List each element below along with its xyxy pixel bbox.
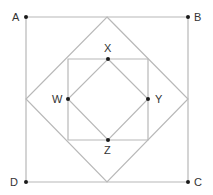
label-a: A xyxy=(12,11,20,23)
point-b xyxy=(186,15,190,19)
point-c xyxy=(186,180,190,184)
label-w: W xyxy=(52,93,63,105)
point-y xyxy=(146,97,150,101)
nested-squares-diagram: A B C D X Y Z W xyxy=(0,0,213,195)
square-wxyz xyxy=(68,59,148,140)
label-z: Z xyxy=(104,144,111,156)
point-z xyxy=(106,138,110,142)
inner-square xyxy=(68,59,148,140)
label-x: X xyxy=(104,42,112,54)
point-x xyxy=(106,57,110,61)
label-c: C xyxy=(194,176,202,188)
point-a xyxy=(24,15,28,19)
label-y: Y xyxy=(155,93,163,105)
point-w xyxy=(66,97,70,101)
label-d: D xyxy=(10,176,18,188)
point-d xyxy=(24,180,28,184)
label-b: B xyxy=(194,11,201,23)
